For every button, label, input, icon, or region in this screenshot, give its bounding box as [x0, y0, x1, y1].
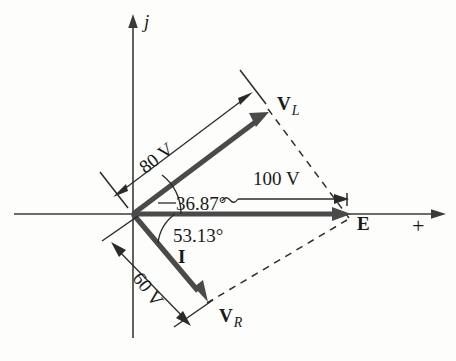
phasor-i-label: I — [178, 246, 185, 267]
dimension-60v-label: 60 V — [129, 268, 168, 311]
real-axis-label: + — [412, 213, 424, 238]
phasor-vr-label-main: V — [219, 305, 233, 326]
phasor-vl-label-main: V — [277, 93, 291, 114]
dimension-80v-label: 80 V — [135, 138, 178, 177]
dimension-80v-arrow-far — [238, 92, 253, 105]
phasor-diagram-figure: 80 V 60 V 100 V — [0, 0, 456, 361]
real-axis-arrowhead — [431, 209, 446, 219]
angle-53-label: 53.13° — [173, 225, 223, 246]
dashed-line-vr-to-e — [207, 220, 347, 303]
phasor-diagram-canvas: 80 V 60 V 100 V — [0, 0, 456, 361]
imaginary-axis-label: j — [141, 11, 149, 32]
angle-36-label: 36.87° — [176, 193, 226, 214]
phasor-vr-label: VR — [219, 305, 243, 330]
phasor-vl-label: VL — [277, 93, 300, 118]
phasor-e-label: E — [357, 213, 370, 234]
dimension-80v-group: 80 V — [100, 70, 266, 208]
construction-dashed-group — [207, 109, 349, 303]
imaginary-axis-arrowhead — [128, 14, 138, 28]
phasor-e-arrowhead — [332, 207, 351, 221]
phasor-e-group — [133, 207, 351, 221]
dimension-100v-group: 100 V — [222, 168, 349, 206]
dimension-100v-label: 100 V — [253, 168, 300, 189]
phasor-vl-label-subscript: L — [291, 103, 300, 118]
phasor-vr-label-subscript: R — [233, 315, 243, 330]
dimension-60v-arrow-origin — [111, 242, 126, 257]
